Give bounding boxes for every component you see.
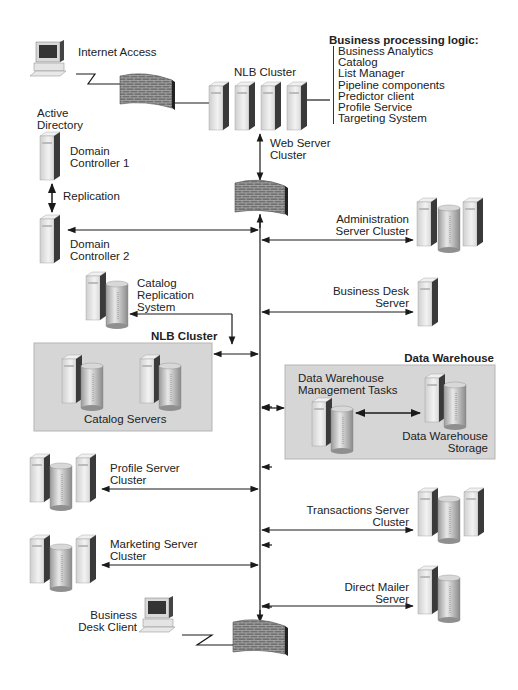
direct-mailer-server-icon	[418, 566, 460, 623]
administration-server-cluster-icon	[417, 198, 483, 253]
label-data-warehouse: Data Warehouse	[404, 352, 494, 364]
label-internet-access: Internet Access	[78, 46, 157, 58]
label-business-desk-server: Business Desk Server	[333, 285, 409, 309]
label-marketing-server-cluster: Marketing Server Cluster	[110, 538, 198, 562]
label-catalog-nlb-cluster: NLB Cluster	[151, 330, 217, 342]
firewall-icon-bottom	[233, 620, 288, 656]
label-web-server-cluster: Web Server Cluster	[270, 137, 331, 161]
label-dw-management-tasks: Data Warehouse Management Tasks	[298, 372, 398, 396]
label-domain-controller-1: Domain Controller 1	[70, 145, 129, 169]
web-server-cluster-icon	[209, 82, 307, 130]
business-desk-server-icon	[418, 278, 438, 326]
label-active-directory: Active Directory	[37, 107, 83, 131]
label-nlb-cluster-top: NLB Cluster	[234, 66, 296, 78]
business-logic-item: Targeting System	[338, 113, 445, 124]
profile-server-cluster-icon	[30, 454, 96, 511]
label-direct-mailer-server: Direct Mailer Server	[344, 581, 409, 605]
domain-controller-2-icon	[40, 215, 60, 263]
business-desk-client-pc-icon	[139, 596, 175, 632]
label-catalog-replication-system: Catalog Replication System	[137, 277, 194, 313]
domain-controller-1-icon	[40, 132, 60, 180]
label-administration-server-cluster: Administration Server Cluster	[336, 213, 410, 237]
firewall-icon-top	[120, 74, 175, 110]
label-replication: Replication	[63, 190, 120, 202]
catalog-replication-system-icon	[86, 272, 128, 329]
label-business-desk-client: Business Desk Client	[78, 609, 137, 633]
label-dw-storage: Data Warehouse Storage	[402, 430, 488, 454]
transactions-server-cluster-icon	[418, 488, 484, 544]
label-catalog-servers: Catalog Servers	[84, 413, 166, 425]
internet-access-pc-icon	[30, 40, 66, 76]
marketing-server-cluster-icon	[30, 535, 96, 592]
label-profile-server-cluster: Profile Server Cluster	[110, 462, 180, 486]
business-logic-item: List Manager	[338, 68, 445, 79]
label-transactions-server-cluster: Transactions Server Cluster	[307, 504, 409, 528]
business-logic-list: Business Analytics Catalog List Manager …	[333, 46, 445, 124]
label-domain-controller-2: Domain Controller 2	[70, 238, 129, 262]
firewall-icon-middle	[235, 180, 288, 216]
